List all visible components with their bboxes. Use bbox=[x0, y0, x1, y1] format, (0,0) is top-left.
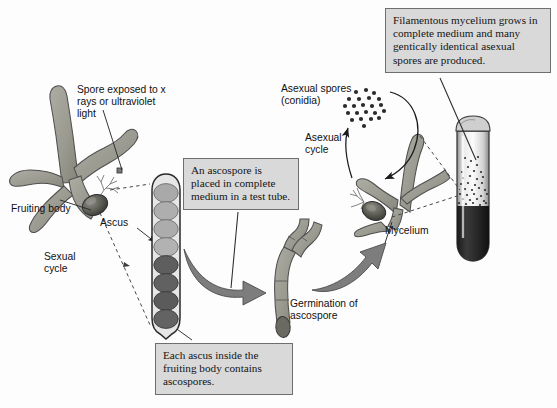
ascospore-light-4 bbox=[154, 238, 178, 257]
test-tube bbox=[456, 116, 490, 261]
hypha-branch-left bbox=[10, 170, 64, 188]
callout-filamentous-mycelium: Filamentous mycelium grows in complete m… bbox=[385, 8, 551, 73]
ascospore-dark-3 bbox=[154, 292, 178, 311]
label-ascus: Ascus bbox=[100, 217, 144, 229]
sexual-cycle-arrowhead bbox=[123, 262, 130, 267]
right-fine-hyphae-tuft bbox=[350, 188, 364, 209]
ascospore-light-3 bbox=[154, 220, 178, 239]
life-cycle-diagram: Filamentous mycelium grows in complete m… bbox=[0, 0, 557, 408]
callout-each-ascus: Each ascus inside the fruiting body cont… bbox=[155, 343, 293, 395]
fine-hyphae-tuft bbox=[97, 175, 119, 196]
hypha-branch-right bbox=[74, 129, 138, 183]
label-mycelium: Mycelium bbox=[385, 225, 447, 237]
right-mycelium bbox=[350, 134, 450, 237]
label-fruiting-body: Fruiting body bbox=[11, 203, 73, 215]
ascospore-dark-4 bbox=[154, 310, 178, 329]
leader-ascospore-callout bbox=[231, 212, 238, 288]
label-germination-of-ascospore: Germination of ascospore bbox=[290, 298, 374, 322]
ascospore-light-2 bbox=[154, 202, 178, 221]
tube-medium bbox=[457, 206, 489, 261]
label-sexual-cycle: Sexual cycle bbox=[44, 251, 100, 275]
ascospore-dark-1 bbox=[154, 256, 178, 275]
arrow-ascus-to-germination bbox=[184, 249, 266, 305]
arrow-germination-to-mycelium bbox=[312, 243, 386, 292]
ascospore-dark-2 bbox=[154, 274, 178, 293]
label-spore-exposed: Spore exposed to x rays or ultraviolet l… bbox=[77, 84, 173, 121]
ascus bbox=[152, 174, 180, 339]
ascospore-light-1 bbox=[154, 184, 178, 203]
label-asexual-cycle: Asexual cycle bbox=[305, 132, 357, 156]
callout-ascospore-placed: An ascospore is placed in complete mediu… bbox=[183, 158, 299, 210]
label-asexual-spores: Asexual spores (conidia) bbox=[281, 83, 379, 107]
